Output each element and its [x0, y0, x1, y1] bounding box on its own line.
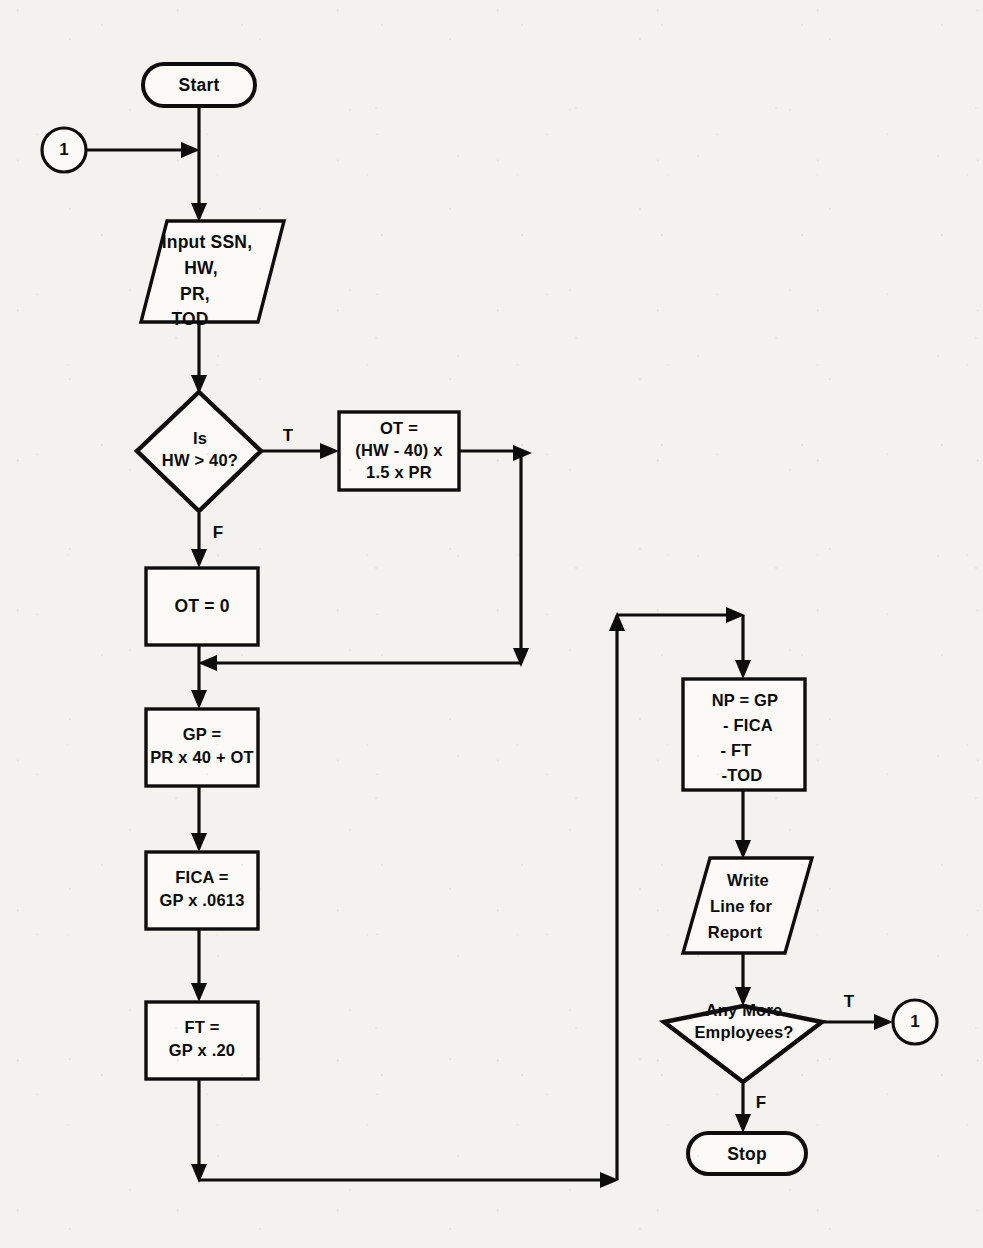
node-input-line2: HW,: [184, 258, 218, 278]
node-input-line4: TOD: [171, 309, 208, 329]
edge-connector-in-to-main: [86, 142, 200, 158]
node-np-line2: - FICA: [723, 716, 773, 734]
node-gp-line2: PR x 40 + OT: [150, 748, 254, 766]
node-decision-more-line1: Any More: [706, 1001, 783, 1019]
node-gp-line1: GP =: [183, 725, 222, 743]
node-write-line3: Report: [708, 923, 763, 941]
node-connector-out[interactable]: 1: [893, 1000, 937, 1044]
edge-label-more-false: F: [756, 1093, 766, 1112]
node-ft-line2: GP x .20: [169, 1041, 235, 1059]
edge-label-more-true: T: [844, 992, 855, 1011]
node-input-line1: Input SSN,: [162, 232, 252, 252]
node-ot-calc-line3: 1.5 x PR: [366, 463, 432, 481]
edge-write-to-decision-more: [735, 954, 751, 1006]
edge-input-to-decision-hw: [191, 323, 207, 394]
edge-fica-to-ft: [191, 929, 207, 1002]
edge-decision-more-false: [735, 1084, 751, 1133]
node-np-line1: NP = GP: [712, 691, 779, 709]
node-stop[interactable]: Stop: [688, 1133, 806, 1174]
node-input[interactable]: Input SSN, HW, PR, TOD: [141, 221, 284, 329]
node-decision-hw-line2: HW > 40?: [162, 451, 238, 469]
node-fica-line2: GP x .0613: [159, 891, 244, 909]
node-write-line1: Write: [727, 871, 769, 889]
node-ot-calc[interactable]: OT = (HW - 40) x 1.5 x PR: [339, 412, 459, 490]
node-connector-out-label: 1: [910, 1012, 919, 1031]
node-start[interactable]: Start: [143, 64, 255, 106]
edge-label-hw-true: T: [283, 426, 294, 445]
node-connector-in-label: 1: [59, 140, 68, 159]
node-np-line4: -TOD: [722, 766, 763, 784]
edge-np-to-write: [735, 790, 751, 859]
node-decision-more[interactable]: Any More Employees?: [664, 1001, 822, 1082]
node-ot-zero[interactable]: OT = 0: [146, 568, 258, 645]
node-ft-line1: FT =: [184, 1018, 219, 1036]
node-start-label: Start: [179, 75, 220, 95]
node-write[interactable]: Write Line for Report: [683, 858, 812, 953]
node-fica-line1: FICA =: [175, 868, 228, 886]
node-ot-calc-line2: (HW - 40) x: [355, 441, 443, 459]
node-write-line2: Line for: [710, 897, 772, 915]
edge-label-hw-false: F: [213, 523, 223, 542]
edge-merge-to-gp: [191, 663, 207, 709]
flowchart-canvas: Start 1 Input SSN, HW, PR, TOD Is HW > 4…: [0, 0, 983, 1248]
node-stop-label: Stop: [727, 1144, 767, 1164]
node-ot-zero-line1: OT = 0: [174, 596, 229, 616]
node-decision-hw-line1: Is: [193, 429, 207, 447]
node-decision-more-line2: Employees?: [694, 1023, 793, 1041]
node-fica[interactable]: FICA = GP x .0613: [146, 852, 258, 929]
node-connector-in[interactable]: 1: [42, 128, 86, 172]
edge-decision-hw-false: [191, 513, 207, 568]
node-ot-calc-line1: OT =: [380, 419, 418, 437]
node-decision-hw[interactable]: Is HW > 40?: [137, 392, 261, 511]
node-ft[interactable]: FT = GP x .20: [146, 1002, 258, 1079]
node-input-line3: PR,: [180, 284, 210, 304]
edge-decision-hw-true: [261, 443, 339, 459]
edge-decision-more-true: [822, 1014, 893, 1030]
edge-ft-to-np: [191, 607, 751, 1188]
edge-start-to-input: [191, 106, 207, 222]
node-gp[interactable]: GP = PR x 40 + OT: [146, 709, 258, 786]
flowchart-page: Start 1 Input SSN, HW, PR, TOD Is HW > 4…: [0, 0, 983, 1248]
node-np-line3: - FT: [720, 741, 751, 759]
edge-gp-to-fica: [191, 786, 207, 852]
node-np[interactable]: NP = GP - FICA - FT -TOD: [683, 679, 805, 790]
